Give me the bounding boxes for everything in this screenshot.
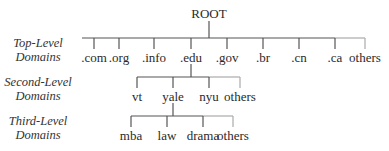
node-cn: .cn xyxy=(291,51,307,64)
node-others-second: others xyxy=(224,90,256,103)
level-label-line: Third-Level xyxy=(0,114,78,128)
node-others-third: others xyxy=(217,129,249,142)
node-others-top: others xyxy=(349,51,381,64)
node-edu: .edu xyxy=(180,51,202,64)
level-label-top: Top-Level Domains xyxy=(0,36,78,64)
node-gov: .gov xyxy=(216,51,239,64)
node-drama: drama xyxy=(187,129,219,142)
level-label-line: Domains xyxy=(0,128,78,142)
level-label-line: Top-Level xyxy=(0,36,78,50)
level-label-third: Third-Level Domains xyxy=(0,114,78,142)
level-label-line: Domains xyxy=(0,50,78,64)
node-yale: yale xyxy=(162,90,184,103)
node-br: .br xyxy=(256,51,270,64)
node-nyu: nyu xyxy=(199,90,219,103)
node-org: .org xyxy=(109,51,129,64)
node-com: .com xyxy=(81,51,107,64)
level-label-second: Second-Level Domains xyxy=(0,75,78,103)
node-info: .info xyxy=(142,51,166,64)
root-node: ROOT xyxy=(191,7,226,20)
node-vt: vt xyxy=(132,90,142,103)
level-label-line: Second-Level xyxy=(0,75,78,89)
node-mba: mba xyxy=(120,129,142,142)
node-law: law xyxy=(158,129,177,142)
level-label-line: Domains xyxy=(0,89,78,103)
node-ca: .ca xyxy=(328,51,343,64)
